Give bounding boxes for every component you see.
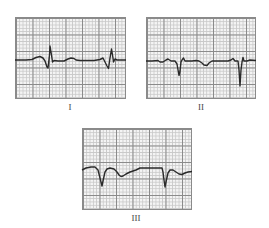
lead-label-iii: III: [121, 213, 151, 223]
ecg-trace-lead-iii: [0, 0, 269, 228]
